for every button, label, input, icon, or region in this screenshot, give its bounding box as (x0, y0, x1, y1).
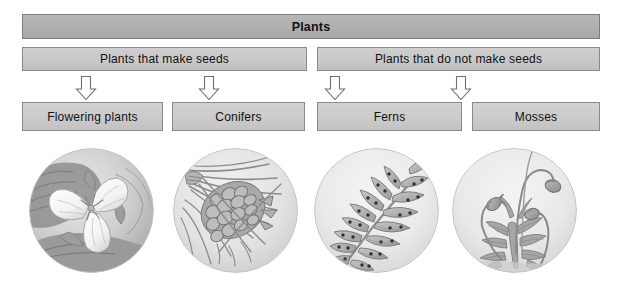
fern-frond-illustration (314, 148, 439, 273)
flowering-plant-illustration (29, 148, 154, 273)
node-label-conifers: Conifers (215, 110, 261, 124)
arrow-down-icon (73, 75, 99, 101)
node-label-ferns: Ferns (374, 110, 406, 124)
node-box-mosses[interactable]: Mosses (472, 102, 600, 131)
arrow-down-icon (448, 75, 474, 101)
node-label-plants-that-make-seeds: Plants that make seeds (100, 52, 229, 66)
node-label-mosses: Mosses (515, 110, 558, 124)
moss-sporophyte-illustration (452, 148, 577, 273)
node-box-flowering-plants[interactable]: Flowering plants (22, 102, 163, 131)
arrow-down-icon (196, 75, 222, 101)
node-box-plants-that-make-seeds[interactable]: Plants that make seeds (22, 47, 307, 71)
node-box-plants[interactable]: Plants (22, 14, 600, 39)
arrow-down-icon (322, 75, 348, 101)
node-box-plants-that-do-not-make-seeds[interactable]: Plants that do not make seeds (317, 47, 600, 71)
node-label-flowering-plants: Flowering plants (47, 110, 138, 124)
plants-classification-diagram: Plants Plants that make seeds Plants tha… (0, 0, 620, 304)
node-label-plants: Plants (292, 20, 331, 34)
node-box-ferns[interactable]: Ferns (317, 102, 462, 131)
node-box-conifers[interactable]: Conifers (172, 102, 305, 131)
pine-cone-illustration (173, 148, 298, 273)
node-label-plants-that-do-not-make-seeds: Plants that do not make seeds (375, 52, 542, 66)
